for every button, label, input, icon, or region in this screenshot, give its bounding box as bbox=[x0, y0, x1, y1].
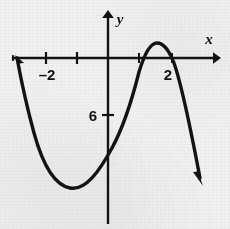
y-tick-label-six: 6 bbox=[89, 107, 97, 124]
y-axis-group bbox=[102, 10, 114, 224]
x-axis-right-arrowhead bbox=[213, 52, 221, 64]
x-axis-group bbox=[13, 52, 221, 64]
x-tick-label-two: 2 bbox=[164, 66, 172, 83]
x-tick-label-minus-two: –2 bbox=[39, 66, 56, 83]
y-axis-label: y bbox=[115, 11, 124, 27]
cubic-graph-figure: x y –2 2 6 bbox=[0, 0, 230, 229]
x-axis-label: x bbox=[204, 31, 213, 47]
y-axis-top-arrowhead bbox=[102, 10, 114, 18]
graph-canvas: x y –2 2 6 bbox=[0, 0, 230, 229]
